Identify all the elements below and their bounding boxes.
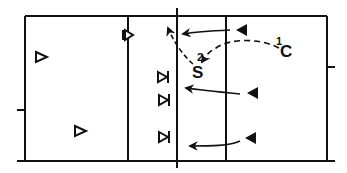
volleyball-diagram: S 2 C 1: [0, 0, 347, 173]
blockers: [158, 71, 169, 143]
defender-triangle-icon: [36, 52, 47, 62]
attacker-triangle-icon: [247, 87, 258, 99]
attacker-triangle-icon: [245, 132, 256, 144]
court-lines: [17, 8, 335, 168]
arrow-attacker2-to-net: [186, 88, 240, 94]
blocker-triangle-icon: [159, 132, 168, 142]
arrow-attacker1-to-net: [183, 30, 230, 34]
court-drawing: [0, 0, 347, 173]
defender-triangle-icon: [75, 126, 86, 136]
blocker-triangle-icon: [158, 72, 167, 82]
setter-label: S: [192, 64, 203, 81]
blocker-triangle-icon: [159, 95, 168, 105]
defender-triangle-icon: [125, 30, 133, 40]
setter-step-number: 2: [197, 52, 203, 63]
attackers: [236, 24, 258, 144]
movement-arrows: [168, 28, 240, 146]
attacker-triangle-icon: [236, 24, 247, 36]
coach-step-number: 1: [276, 36, 282, 47]
arrow-attacker3-to-net: [190, 141, 240, 146]
defenders: [36, 30, 133, 136]
arrow-coach-to-setter: [202, 41, 279, 63]
